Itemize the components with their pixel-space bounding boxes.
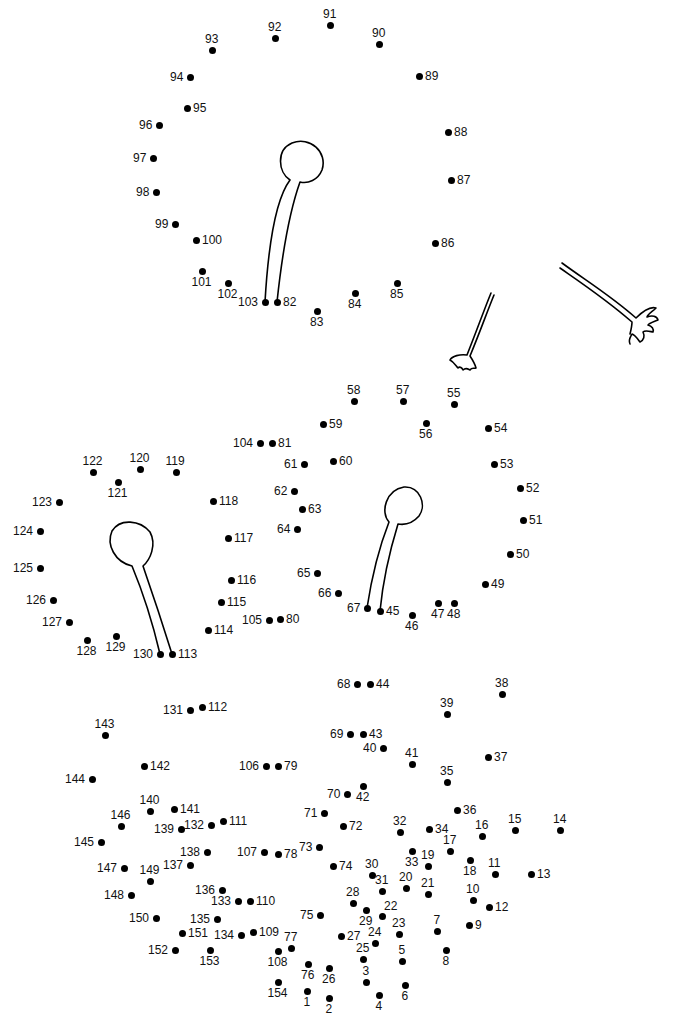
dot-53[interactable] xyxy=(491,461,498,468)
dot-19[interactable] xyxy=(425,863,432,870)
dot-46[interactable] xyxy=(409,612,416,619)
dot-45[interactable] xyxy=(377,608,384,615)
dot-31[interactable] xyxy=(379,888,386,895)
dot-8[interactable] xyxy=(443,947,450,954)
dot-32[interactable] xyxy=(397,829,404,836)
dot-13[interactable] xyxy=(528,871,535,878)
dot-40[interactable] xyxy=(380,745,387,752)
dot-107[interactable] xyxy=(261,849,268,856)
dot-96[interactable] xyxy=(156,122,163,129)
dot-37[interactable] xyxy=(485,754,492,761)
dot-77[interactable] xyxy=(288,945,295,952)
dot-84[interactable] xyxy=(352,290,359,297)
dot-71[interactable] xyxy=(321,810,328,817)
dot-119[interactable] xyxy=(173,469,180,476)
dot-18[interactable] xyxy=(467,857,474,864)
dot-41[interactable] xyxy=(409,761,416,768)
dot-122[interactable] xyxy=(90,469,97,476)
dot-78[interactable] xyxy=(275,851,282,858)
dot-138[interactable] xyxy=(204,849,211,856)
dot-97[interactable] xyxy=(150,155,157,162)
dot-148[interactable] xyxy=(128,892,135,899)
dot-88[interactable] xyxy=(445,129,452,136)
dot-103[interactable] xyxy=(262,299,269,306)
dot-50[interactable] xyxy=(507,551,514,558)
dot-151[interactable] xyxy=(179,930,186,937)
dot-22[interactable] xyxy=(379,913,386,920)
dot-65[interactable] xyxy=(314,570,321,577)
dot-133[interactable] xyxy=(235,898,242,905)
dot-17[interactable] xyxy=(447,848,454,855)
dot-51[interactable] xyxy=(520,517,527,524)
dot-39[interactable] xyxy=(444,711,451,718)
dot-108[interactable] xyxy=(275,948,282,955)
dot-11[interactable] xyxy=(492,871,499,878)
dot-56[interactable] xyxy=(423,420,430,427)
dot-94[interactable] xyxy=(187,74,194,81)
dot-69[interactable] xyxy=(347,731,354,738)
dot-21[interactable] xyxy=(425,891,432,898)
dot-93[interactable] xyxy=(209,47,216,54)
dot-14[interactable] xyxy=(557,827,564,834)
dot-26[interactable] xyxy=(326,965,333,972)
dot-140[interactable] xyxy=(147,808,154,815)
dot-129[interactable] xyxy=(113,633,120,640)
dot-48[interactable] xyxy=(451,600,458,607)
dot-87[interactable] xyxy=(448,177,455,184)
dot-58[interactable] xyxy=(351,398,358,405)
dot-134[interactable] xyxy=(238,932,245,939)
dot-95[interactable] xyxy=(184,105,191,112)
dot-101[interactable] xyxy=(199,268,206,275)
dot-44[interactable] xyxy=(367,681,374,688)
dot-54[interactable] xyxy=(485,425,492,432)
dot-124[interactable] xyxy=(37,528,44,535)
dot-73[interactable] xyxy=(316,844,323,851)
dot-74[interactable] xyxy=(330,863,337,870)
dot-102[interactable] xyxy=(225,280,232,287)
dot-113[interactable] xyxy=(169,651,176,658)
dot-61[interactable] xyxy=(301,461,308,468)
dot-60[interactable] xyxy=(330,458,337,465)
dot-154[interactable] xyxy=(275,979,282,986)
dot-106[interactable] xyxy=(263,763,270,770)
dot-92[interactable] xyxy=(272,35,279,42)
dot-67[interactable] xyxy=(364,605,371,612)
dot-24[interactable] xyxy=(372,940,379,947)
dot-38[interactable] xyxy=(499,691,506,698)
dot-99[interactable] xyxy=(172,221,179,228)
dot-110[interactable] xyxy=(247,898,254,905)
dot-91[interactable] xyxy=(327,22,334,29)
dot-131[interactable] xyxy=(187,707,194,714)
dot-100[interactable] xyxy=(193,237,200,244)
dot-57[interactable] xyxy=(400,398,407,405)
dot-149[interactable] xyxy=(147,878,154,885)
dot-114[interactable] xyxy=(205,627,212,634)
dot-126[interactable] xyxy=(50,597,57,604)
dot-36[interactable] xyxy=(454,807,461,814)
dot-42[interactable] xyxy=(360,783,367,790)
dot-3[interactable] xyxy=(363,979,370,986)
dot-47[interactable] xyxy=(435,600,442,607)
dot-150[interactable] xyxy=(153,915,160,922)
dot-109[interactable] xyxy=(250,929,257,936)
dot-142[interactable] xyxy=(141,763,148,770)
dot-143[interactable] xyxy=(102,732,109,739)
dot-135[interactable] xyxy=(214,916,221,923)
dot-68[interactable] xyxy=(354,681,361,688)
dot-136[interactable] xyxy=(219,887,226,894)
dot-5[interactable] xyxy=(399,958,406,965)
dot-23[interactable] xyxy=(396,931,403,938)
dot-20[interactable] xyxy=(403,885,410,892)
dot-85[interactable] xyxy=(394,280,401,287)
dot-6[interactable] xyxy=(402,982,409,989)
dot-132[interactable] xyxy=(208,822,215,829)
dot-28[interactable] xyxy=(350,900,357,907)
dot-49[interactable] xyxy=(482,581,489,588)
dot-121[interactable] xyxy=(115,479,122,486)
dot-25[interactable] xyxy=(360,956,367,963)
dot-55[interactable] xyxy=(451,401,458,408)
dot-63[interactable] xyxy=(299,506,306,513)
dot-127[interactable] xyxy=(66,619,73,626)
dot-52[interactable] xyxy=(517,485,524,492)
dot-64[interactable] xyxy=(294,526,301,533)
